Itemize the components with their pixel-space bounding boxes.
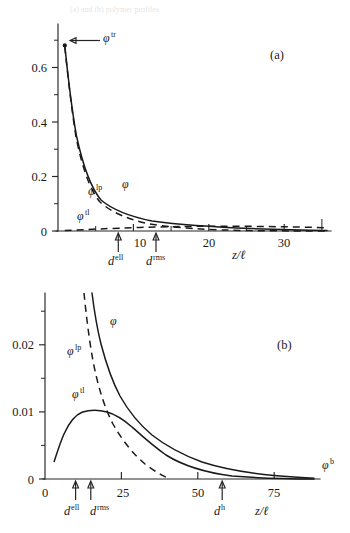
panel-b-annot-d-h: d h bbox=[214, 503, 225, 519]
svg-text:lp: lp bbox=[75, 343, 81, 352]
panel-a-xtick-label-10: 10 bbox=[134, 236, 147, 250]
panel-a-xaxis-label: z/ℓ bbox=[231, 248, 246, 262]
svg-text:φ: φ bbox=[67, 344, 74, 358]
panel-b-arrow-d-rms bbox=[88, 481, 94, 500]
panel-a-ytick-label-0.4: 0.4 bbox=[31, 116, 47, 130]
panel-a-annot-phi-lp: φ lp bbox=[88, 183, 102, 199]
panel-b-xtick-label-75: 75 bbox=[268, 486, 281, 500]
panel-b-curve-phi bbox=[92, 293, 314, 478]
panel-a-arrow-d-ell bbox=[115, 233, 121, 252]
panel-b-curve-phi-b bbox=[54, 410, 314, 479]
svg-text:d: d bbox=[64, 504, 71, 518]
panel-a-phi-tr-marker bbox=[63, 43, 67, 47]
svg-text:φ: φ bbox=[122, 177, 129, 191]
panel-a-annot-phi-tl: φ tl bbox=[77, 208, 90, 224]
svg-text:φ: φ bbox=[322, 458, 329, 472]
svg-text:tl: tl bbox=[85, 208, 90, 217]
panel-a-ytick-label-0.2: 0.2 bbox=[31, 170, 47, 184]
svg-text:ell: ell bbox=[115, 253, 124, 262]
svg-text:d: d bbox=[214, 504, 221, 518]
svg-text:rms: rms bbox=[97, 503, 109, 512]
panel-b-annot-phi-tl: φ tl bbox=[72, 386, 85, 402]
panel-a-ytick-label-0: 0 bbox=[41, 225, 47, 239]
panel-b-svg: 0 0.01 0.02 0 25 50 75 z/ℓ (b) φ lp φ φ … bbox=[0, 265, 350, 533]
panel-b-annot-phi-b: φ b bbox=[322, 457, 334, 473]
svg-text:φ: φ bbox=[103, 31, 110, 45]
figure-root: (a) and (b) polymer profiles bbox=[0, 0, 350, 533]
panel-b-ytick-label-0.01: 0.01 bbox=[12, 405, 34, 419]
panel-a-curve-phi bbox=[65, 46, 327, 231]
panel-b-annot-phi: φ bbox=[110, 314, 117, 328]
panel-b-xtick-label-25: 25 bbox=[117, 486, 130, 500]
panel-a-arrow-d-rms bbox=[153, 233, 159, 252]
panel-a-xtick-label-30: 30 bbox=[278, 236, 291, 250]
svg-text:lp: lp bbox=[96, 183, 102, 192]
panel-b-xaxis-label: z/ℓ bbox=[254, 504, 269, 518]
svg-text:φ: φ bbox=[77, 209, 84, 223]
panel-b-arrow-d-h bbox=[219, 481, 225, 500]
panel-b-annot-d-ell: d ell bbox=[64, 503, 80, 519]
panel-a-xtick-label-20: 20 bbox=[203, 236, 216, 250]
svg-text:d: d bbox=[90, 504, 97, 518]
svg-text:b: b bbox=[330, 457, 334, 466]
panel-b-label: (b) bbox=[277, 338, 292, 352]
panel-a-annot-phi-tr: φ tr bbox=[103, 30, 116, 46]
svg-text:tl: tl bbox=[80, 386, 85, 395]
panel-b-xtick-label-0: 0 bbox=[42, 486, 48, 500]
svg-text:ell: ell bbox=[71, 503, 80, 512]
panel-a-label: (a) bbox=[270, 48, 284, 62]
panel-b-ytick-label-0: 0 bbox=[28, 473, 34, 487]
panel-a: 0 0.2 0.4 0.6 10 20 30 z/ℓ (a) φ tr φ lp… bbox=[0, 0, 350, 268]
panel-b-ytick-label-0.02: 0.02 bbox=[12, 338, 34, 352]
panel-a-phi-tr-arrow bbox=[70, 38, 100, 44]
svg-text:tr: tr bbox=[111, 30, 116, 39]
panel-b-arrow-d-ell bbox=[73, 481, 79, 500]
panel-b-xtick-label-50: 50 bbox=[192, 486, 205, 500]
panel-b-annot-d-rms: d rms bbox=[90, 503, 109, 519]
svg-text:h: h bbox=[221, 503, 225, 512]
svg-text:φ: φ bbox=[110, 314, 117, 328]
panel-b-annot-phi-lp: φ lp bbox=[67, 343, 81, 359]
svg-text:rms: rms bbox=[153, 253, 165, 262]
svg-text:φ: φ bbox=[88, 184, 95, 198]
panel-a-svg: 0 0.2 0.4 0.6 10 20 30 z/ℓ (a) φ tr φ lp… bbox=[0, 0, 350, 268]
svg-text:φ: φ bbox=[72, 387, 79, 401]
panel-a-ytick-label-0.6: 0.6 bbox=[31, 61, 47, 75]
panel-a-annot-phi: φ bbox=[122, 177, 129, 191]
panel-b: 0 0.01 0.02 0 25 50 75 z/ℓ (b) φ lp φ φ … bbox=[0, 265, 350, 533]
